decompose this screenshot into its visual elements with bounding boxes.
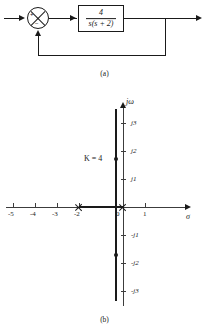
output-arrowhead — [196, 15, 202, 21]
transfer-function-fraction: 4 s(s + 2) — [79, 9, 123, 29]
summing-plus-sign: + — [30, 11, 34, 17]
feedback-wire-down — [165, 18, 166, 55]
caption-part-b: (b) — [0, 316, 209, 324]
imag-tick-j2 — [121, 151, 126, 152]
imag-tick-label-j2: j2 — [131, 148, 136, 155]
real-tick--5 — [13, 203, 14, 208]
imag-tick--j1 — [121, 235, 126, 236]
input-wire — [4, 18, 20, 19]
feedback-wire-across — [38, 55, 166, 56]
imaginary-axis-arrowhead — [120, 102, 126, 108]
gain-point-upper — [114, 157, 118, 161]
real-tick-label-1: 1 — [143, 211, 147, 218]
imag-tick-label-j3: j3 — [131, 120, 136, 127]
real-axis-label: σ — [186, 213, 190, 221]
real-tick-label--4: -4 — [30, 211, 36, 218]
real-tick--3 — [57, 203, 58, 208]
feedback-wire-up — [38, 35, 39, 56]
transfer-function-numerator: 4 — [79, 9, 123, 18]
locus-vertical-branch — [115, 109, 117, 301]
summing-minus-sign: − — [35, 20, 39, 26]
gain-point-lower — [114, 253, 118, 257]
figure-root: + − 4 s(s + 2) (a) jω — [0, 0, 209, 335]
imag-tick-label--j3: -j3 — [131, 288, 139, 295]
real-axis-arrowhead — [185, 204, 191, 210]
transfer-function-block: 4 s(s + 2) — [78, 5, 124, 32]
imag-tick-label--j2: -j2 — [131, 260, 139, 267]
output-wire — [124, 18, 200, 19]
caption-part-a: (a) — [0, 70, 209, 78]
pole-marker--2 — [75, 203, 84, 212]
locus-real-axis-segment — [79, 206, 124, 208]
real-tick--4 — [35, 203, 36, 208]
real-tick-label--5: -5 — [8, 211, 14, 218]
imag-tick-label-j1: j1 — [131, 176, 136, 183]
forward-arrowhead — [70, 15, 76, 21]
pole-marker-0 — [119, 203, 128, 212]
gain-annotation-label: K = 4 — [84, 155, 102, 163]
feedback-arrowhead — [35, 30, 41, 36]
imag-tick--j3 — [121, 291, 126, 292]
imag-tick-label--j1: -j1 — [131, 232, 139, 239]
imag-tick-j1 — [121, 179, 126, 180]
input-arrowhead — [19, 15, 25, 21]
transfer-function-denominator: s(s + 2) — [79, 20, 123, 29]
imag-tick-j3 — [121, 123, 126, 124]
imag-tick--j2 — [121, 263, 126, 264]
imaginary-axis-label: jω — [126, 98, 134, 106]
real-tick-1 — [145, 203, 146, 208]
real-tick-label--2: -2 — [74, 211, 80, 218]
real-tick-label--3: -3 — [52, 211, 58, 218]
